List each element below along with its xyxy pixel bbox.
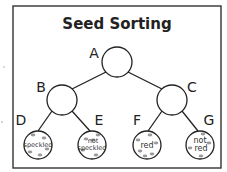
node-e-text-line2: speckled [78,144,107,152]
edge-a-b [72,72,106,89]
node-g-label: G [204,112,215,128]
node-d-text: speckled [24,141,53,149]
node-b: B [36,79,77,115]
node-e-label: E [95,112,104,128]
node-f-text: red [140,141,153,150]
node-c-circle [157,85,187,115]
node-d-label: D [16,112,27,128]
node-a-label: A [89,45,99,61]
stray-mark [3,66,5,68]
node-b-circle [47,85,77,115]
node-a: A [89,45,132,77]
node-g: not red G [186,112,214,159]
seed-sorting-diagram: Seed Sorting A B C speckled D [0,0,227,172]
node-e: not speckled E [78,112,107,159]
edge-b-d [38,111,52,131]
diagram-title: Seed Sorting [62,15,171,33]
node-c-label: C [187,79,197,95]
node-a-circle [102,47,132,77]
node-f-label: F [133,112,141,128]
stray-mark [1,121,3,123]
edge-b-e [72,111,90,131]
node-c: C [157,79,197,115]
node-b-label: B [36,79,46,95]
edge-c-f [148,111,162,131]
edge-c-g [182,111,198,131]
node-g-text-line2: red [194,144,207,153]
edge-a-c [128,72,162,89]
